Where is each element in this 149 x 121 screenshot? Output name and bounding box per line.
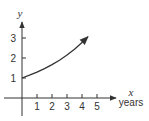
y-tick-label: 2 bbox=[10, 53, 16, 64]
chart: 12345123yxyears bbox=[0, 0, 149, 121]
x-tick-label: 2 bbox=[49, 101, 55, 112]
growth-curve bbox=[22, 37, 88, 78]
x-tick-label: 3 bbox=[64, 101, 70, 112]
x-tick-label: 4 bbox=[79, 101, 85, 112]
x-tick-label: 5 bbox=[94, 101, 100, 112]
x-tick-label: 1 bbox=[34, 101, 40, 112]
y-axis-label: y bbox=[17, 7, 23, 19]
y-tick-label: 1 bbox=[10, 73, 16, 84]
y-tick-label: 3 bbox=[10, 33, 16, 44]
x-axis-units: years bbox=[119, 97, 143, 108]
